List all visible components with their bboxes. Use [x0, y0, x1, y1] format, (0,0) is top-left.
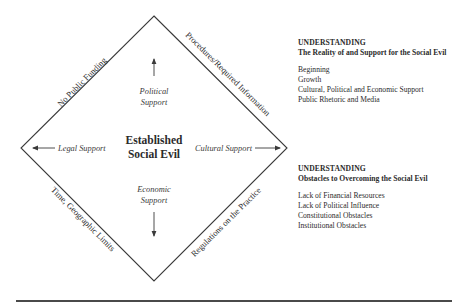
list-item: Constitutional Obstacles — [298, 211, 466, 221]
panel-list: Lack of Financial Resources Lack of Poli… — [298, 191, 466, 232]
center-title-line1: Established — [126, 134, 183, 146]
economic-support-label-line1: Economic — [136, 185, 171, 194]
political-support-label-line2: Support — [141, 98, 168, 107]
legal-support-label: Legal Support — [57, 144, 106, 153]
list-item: Institutional Obstacles — [298, 221, 466, 231]
economic-support-label-line2: Support — [141, 196, 168, 205]
list-item: Lack of Political Influence — [298, 201, 466, 211]
political-support-label-line1: Political — [139, 87, 170, 96]
panel-heading: UNDERSTANDING — [298, 38, 466, 48]
list-item: Public Rhetoric and Media — [298, 95, 466, 105]
panel-subheading: The Reality of and Support for the Socia… — [298, 48, 466, 58]
list-item: Cultural, Political and Economic Support — [298, 85, 466, 95]
understanding-reality-panel: UNDERSTANDING The Reality of and Support… — [298, 38, 466, 106]
panel-subheading: Obstacles to Overcoming the Social Evil — [298, 174, 466, 184]
bottom-divider — [16, 300, 452, 302]
panel-list: Beginning Growth Cultural, Political and… — [298, 65, 466, 106]
list-item: Growth — [298, 75, 466, 85]
edge-label-top-left: No Public Funding — [55, 55, 109, 109]
list-item: Beginning — [298, 65, 466, 75]
list-item: Lack of Financial Resources — [298, 191, 466, 201]
edge-label-bottom-left: Time, Geographic Limits — [49, 185, 118, 254]
understanding-obstacles-panel: UNDERSTANDING Obstacles to Overcoming th… — [298, 164, 466, 232]
cultural-support-label: Cultural Support — [195, 144, 253, 153]
edge-label-bottom-right: Regulations on the Practice — [189, 185, 263, 259]
center-title-line2: Social Evil — [128, 148, 180, 160]
edge-label-top-right: Procedures/Required Information — [184, 30, 273, 119]
panel-heading: UNDERSTANDING — [298, 164, 466, 174]
